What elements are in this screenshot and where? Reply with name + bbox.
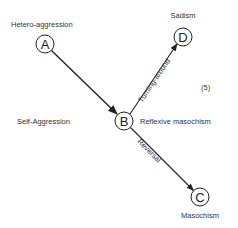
edge-a-to-b xyxy=(52,51,118,115)
diagram-canvas: A B C D Hetero-aggression Reflexive maso… xyxy=(0,0,238,228)
edge-label-reversal: Reversal xyxy=(136,137,164,165)
edge-b-to-c xyxy=(131,128,194,191)
node-a: A xyxy=(36,35,54,53)
node-d: D xyxy=(174,28,192,46)
figure-number: (5) xyxy=(201,83,211,92)
label-self-aggression: Self-Aggression xyxy=(17,117,70,126)
node-b: B xyxy=(115,112,133,130)
node-c-letter: C xyxy=(195,190,204,205)
node-c: C xyxy=(191,188,209,206)
diagram-svg: A B C D Hetero-aggression Reflexive maso… xyxy=(0,0,238,228)
label-masochism: Masochism xyxy=(181,211,219,220)
label-reflexive-masochism: Reflexive masochism xyxy=(140,117,211,126)
edge-label-turning-around: Turning-around xyxy=(136,57,172,104)
label-sadism: Sadism xyxy=(170,11,195,20)
node-a-letter: A xyxy=(41,37,50,52)
label-hetero-aggression: Hetero-aggression xyxy=(11,20,73,29)
node-d-letter: D xyxy=(178,30,187,45)
node-b-letter: B xyxy=(120,114,129,129)
